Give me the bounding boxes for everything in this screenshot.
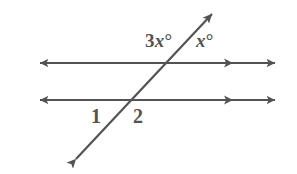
angle-3x-degree-symbol: °: [164, 30, 172, 51]
angle-label-2: 2: [133, 106, 143, 126]
angle-x-variable: x: [196, 30, 206, 51]
angle-label-x: x°: [196, 31, 214, 50]
angle-x-degree-symbol: °: [206, 30, 214, 51]
angle-3x-coefficient: 3: [145, 30, 155, 51]
transversal-line: [76, 14, 212, 159]
geometry-canvas: [0, 0, 297, 174]
angle-label-3x: 3x°: [145, 31, 172, 50]
geometry-figure: 3x° x° 1 2: [0, 0, 297, 174]
angle-label-1: 1: [91, 106, 101, 126]
angle-3x-variable: x: [155, 30, 165, 51]
